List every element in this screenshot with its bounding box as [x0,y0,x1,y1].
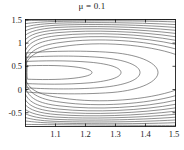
x-tick-label: 1.5 [169,129,180,139]
x-tick-label: 1.2 [80,129,91,139]
y-tick-label: 1 [18,38,22,48]
y-axis-tick-labels: 1.5 1 0.5 0 -0.5 [9,15,22,118]
x-tick-label: 1.3 [110,129,121,139]
x-tick-label: 1.1 [50,129,61,139]
x-tick-label: 1.4 [140,129,151,139]
y-tick-label: 0 [18,85,22,95]
y-tick-label: 1.5 [11,15,22,25]
contour-figure: μ = 0.1 [0,0,184,150]
x-axis-tick-labels: 1.1 1.2 1.3 1.4 1.5 [50,129,179,139]
plot-canvas: 1.1 1.2 1.3 1.4 1.5 1.5 1 0.5 0 -0.5 [0,0,184,150]
y-tick-label: 0.5 [11,61,22,71]
y-tick-label: -0.5 [9,108,22,118]
